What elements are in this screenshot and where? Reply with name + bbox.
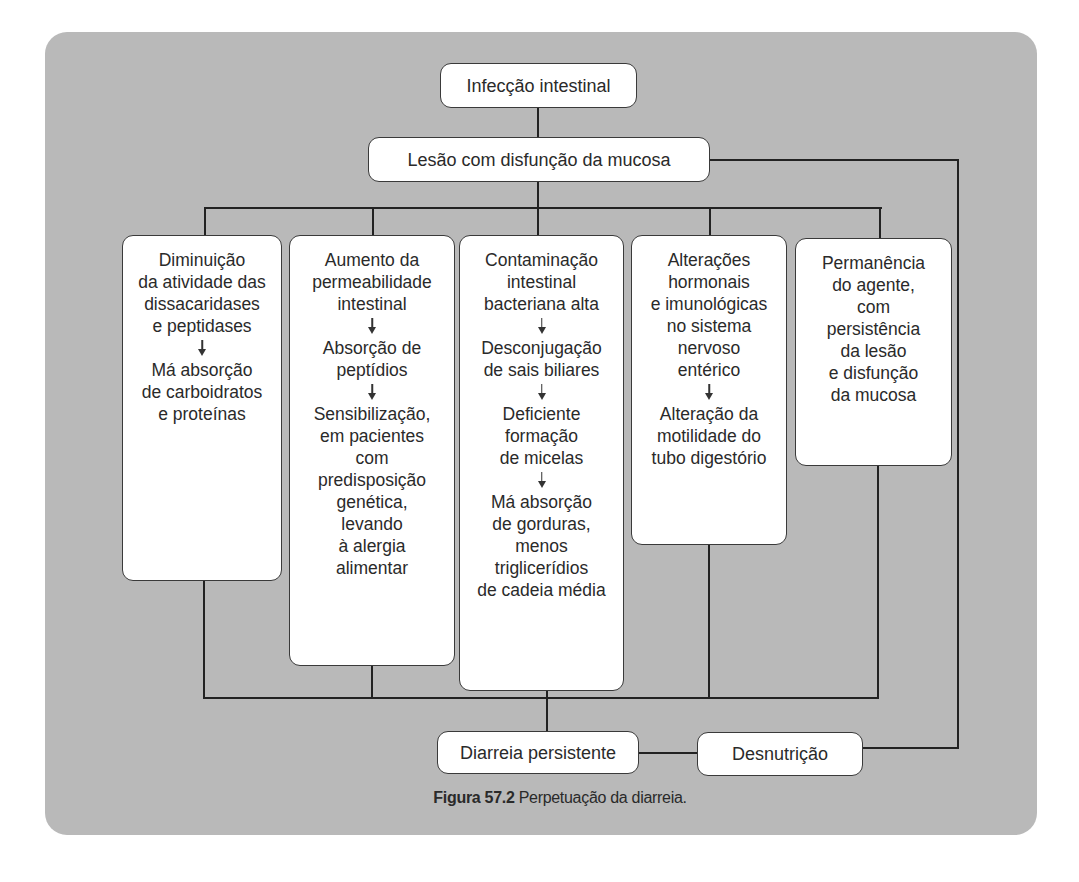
- feedback-right: [957, 159, 959, 749]
- column-permeability: Aumento da permeabilidade intestinal Abs…: [289, 235, 455, 666]
- step-text: Absorção de peptídios: [290, 337, 454, 381]
- column-hormonal-immunological: Alterações hormonais e imunológicas no s…: [631, 235, 787, 545]
- connector-lesion-bus: [537, 181, 539, 208]
- node-mucosal-lesion: Lesão com disfunção da mucosa: [368, 137, 710, 182]
- branch-col3: [537, 207, 539, 235]
- arrow-down-icon: [632, 381, 786, 403]
- figure-caption: Figura 57.2 Perpetuação da diarreia.: [330, 789, 790, 807]
- arrow-down-icon: [123, 337, 281, 359]
- step-text: Diminuição da atividade das dissacaridas…: [123, 249, 281, 337]
- step-text: Má absorção de carboidratos e proteínas: [123, 359, 281, 425]
- top-bus: [204, 207, 882, 209]
- arrow-down-icon: [460, 315, 623, 337]
- branch-col2: [372, 207, 374, 235]
- drop-col5: [877, 465, 879, 698]
- arrow-down-icon: [460, 381, 623, 403]
- drop-col4: [708, 544, 710, 698]
- branch-col1: [204, 207, 206, 235]
- arrow-down-icon: [290, 315, 454, 337]
- bottom-bus: [203, 697, 879, 699]
- step-text: Alteração da motilidade do tubo digestór…: [632, 403, 786, 469]
- column-agent-persistence: Permanência do agente, com persistência …: [795, 238, 952, 466]
- arrow-down-icon: [460, 469, 623, 491]
- step-text: Desconjugação de sais biliares: [460, 337, 623, 381]
- step-text: Permanência do agente, com persistência …: [796, 252, 951, 406]
- node-label: Desnutrição: [732, 743, 828, 765]
- column-disaccharidase: Diminuição da atividade das dissacaridas…: [122, 235, 282, 581]
- step-text: Deficiente formação de micelas: [460, 403, 623, 469]
- node-persistent-diarrhea: Diarreia persistente: [437, 731, 639, 774]
- drop-col1: [203, 580, 205, 698]
- caption-text: Perpetuação da diarreia.: [519, 789, 687, 806]
- drop-col2: [371, 665, 373, 698]
- node-intestinal-infection: Infecção intestinal: [440, 63, 637, 108]
- branch-col5: [879, 207, 881, 238]
- column-bacterial-contamination: Contaminação intestinal bacteriana alta …: [459, 235, 624, 691]
- node-label: Infecção intestinal: [466, 75, 610, 97]
- feedback-bottom: [862, 747, 959, 749]
- connector-root-lesion: [537, 107, 539, 137]
- connector-diarrhea-malnutrition: [638, 752, 698, 754]
- caption-label: Figura 57.2: [433, 789, 514, 806]
- node-label: Lesão com disfunção da mucosa: [407, 149, 670, 171]
- node-label: Diarreia persistente: [460, 742, 616, 764]
- node-malnutrition: Desnutrição: [697, 732, 863, 776]
- step-text: Sensibilização, em pacientes com predisp…: [290, 403, 454, 579]
- branch-col4: [709, 207, 711, 235]
- feedback-top: [709, 159, 959, 161]
- connector-col3-diarrhea: [546, 690, 548, 731]
- step-text: Alterações hormonais e imunológicas no s…: [632, 249, 786, 381]
- step-text: Contaminação intestinal bacteriana alta: [460, 249, 623, 315]
- step-text: Má absorção de gorduras, menos triglicer…: [460, 491, 623, 601]
- arrow-down-icon: [290, 381, 454, 403]
- step-text: Aumento da permeabilidade intestinal: [290, 249, 454, 315]
